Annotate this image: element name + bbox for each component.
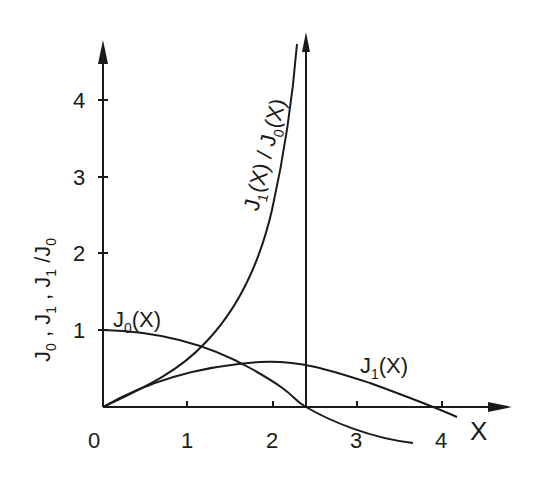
x-tick-1: 1 [181, 428, 193, 453]
svg-text:J0 , J1 , J1 /J0: J0 , J1 , J1 /J0 [30, 238, 59, 362]
y-axis-label: J0 , J1 , J1 /J0 [30, 238, 59, 362]
svg-text:J1(X) / J0(X): J1(X) / J0(X) [239, 96, 295, 214]
label-j1: J1(X) [360, 353, 408, 382]
x-axis-arrow-icon [488, 402, 512, 412]
label-j0: J0(X) [113, 307, 161, 336]
x-tick-4: 4 [435, 428, 447, 453]
bessel-chart: 0 1 2 3 4 1 2 3 4 X J0 , J1 , J1 /J0 J0(… [0, 0, 541, 488]
zero-line-arrow-icon [302, 32, 310, 52]
x-axis-label: X [470, 416, 487, 446]
y-axis-arrow-icon [98, 40, 108, 64]
curve-j0 [103, 330, 413, 443]
y-tick-3: 3 [73, 165, 85, 190]
y-tick-1: 1 [73, 318, 85, 343]
label-ratio: J1(X) / J0(X) [239, 96, 295, 214]
x-tick-0: 0 [88, 428, 100, 453]
y-tick-4: 4 [73, 88, 85, 113]
y-tick-2: 2 [73, 241, 85, 266]
y-axis [98, 40, 108, 407]
x-tick-2: 2 [266, 428, 278, 453]
j0-zero-line [302, 32, 310, 407]
